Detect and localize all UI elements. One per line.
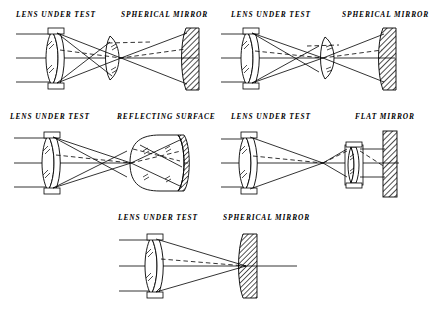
panel-1-right-label: SPHERICAL MIRROR: [121, 10, 208, 19]
concave-spherical-mirror: [182, 28, 200, 90]
ray-cross-b: [53, 137, 127, 177]
panel-2-right-label: SPHERICAL MIRROR: [342, 10, 429, 19]
ray-cross-a: [252, 46, 319, 83]
concave-spherical-mirror: [239, 234, 258, 298]
panel-5: LENS UNDER TEST SPHERICAL MIRROR: [105, 207, 345, 311]
ray-lower-converge: [250, 163, 323, 189]
optics-figure: LENS UNDER TEST SPHERICAL MIRROR: [0, 0, 438, 311]
panel-5-right-label: SPHERICAL MIRROR: [223, 213, 310, 222]
panel-3-left-label: LENS UNDER TEST: [10, 112, 90, 121]
dashed-ray-segment: [360, 151, 385, 167]
ray-lower-converge: [53, 163, 131, 188]
panel-4: LENS UNDER TEST FLAT MIRROR: [219, 105, 438, 210]
panel-1-left-label: LENS UNDER TEST: [16, 10, 96, 19]
panel-4-left-label: LENS UNDER TEST: [231, 112, 311, 121]
ray-to-mirror-lower: [121, 58, 187, 84]
dashed-ray-mid: [323, 151, 347, 163]
ray-cross-b: [57, 33, 112, 76]
panel-2-left-label: LENS UNDER TEST: [231, 10, 311, 19]
panel-2: LENS UNDER TEST SPHERICAL MIRROR: [219, 0, 438, 105]
panel-5-left-label: LENS UNDER TEST: [118, 213, 198, 222]
ray-to-small-lens-lower: [323, 163, 347, 177]
panel-4-right-label: FLAT MIRROR: [355, 112, 415, 121]
panel-3-right-label: REFLECTING SURFACE: [117, 112, 216, 121]
ray-lower-converge: [156, 266, 246, 292]
ray-to-mirror-upper: [121, 33, 187, 58]
panel-1: LENS UNDER TEST SPHERICAL MIRROR: [0, 0, 219, 105]
ray-lower-converge: [252, 58, 323, 83]
ray-cross-a: [57, 42, 110, 83]
ray-upper-converge: [53, 137, 131, 163]
flat-mirror-bar: [383, 131, 397, 197]
panel-3: LENS UNDER TEST REFLECTING SURFACE: [0, 105, 219, 210]
ray-cross-b: [252, 33, 319, 72]
thick-plano-convex-reflector: [130, 135, 189, 191]
dashed-ray-segment: [307, 45, 339, 46]
doublet-lens: [145, 234, 163, 298]
doublet-lens: [42, 132, 60, 194]
doublet-lens: [241, 28, 259, 89]
doublet-lens: [239, 132, 257, 194]
